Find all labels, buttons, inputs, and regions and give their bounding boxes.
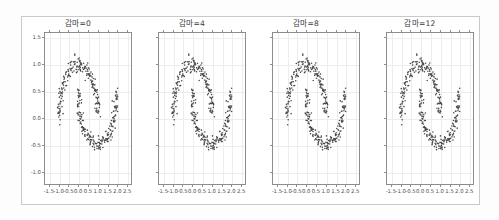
- scatter-points-0: [45, 33, 131, 184]
- x-tick-mark: [163, 185, 164, 187]
- x-tick-mark: [355, 185, 356, 187]
- x-tick-label: -1.5: [272, 188, 282, 195]
- y-tick-mark: [270, 145, 272, 146]
- x-tick-mark-top: [306, 30, 307, 32]
- x-tick-mark: [345, 185, 346, 187]
- x-tick-label: 2.5: [123, 188, 131, 195]
- subplot-title-1: 감마=4: [136, 19, 248, 29]
- x-tick-mark: [202, 185, 203, 187]
- x-tick-mark-top: [202, 30, 203, 32]
- plot-area-3: [386, 32, 474, 185]
- x-tick-mark-top: [117, 30, 118, 32]
- x-tick-mark: [440, 185, 441, 187]
- x-tick-label: 1.5: [217, 188, 225, 195]
- x-tick-mark: [212, 185, 213, 187]
- x-tick-mark-top: [440, 30, 441, 32]
- x-tick-label: 2.5: [237, 188, 245, 195]
- x-tick-mark-top: [430, 30, 431, 32]
- x-tick-mark: [296, 185, 297, 187]
- y-tick-mark: [42, 37, 44, 38]
- x-tick-mark: [127, 185, 128, 187]
- x-tick-mark: [78, 185, 79, 187]
- x-tick-mark-top: [98, 30, 99, 32]
- y-tick-label: -1.0: [31, 168, 41, 175]
- scatter-points-2: [273, 33, 359, 184]
- subplot-panel-2: 감마=8-1.5-1.0-0.50.00.51.01.52.02.5: [250, 17, 362, 206]
- plot-area-0: [44, 32, 132, 185]
- x-tick-label: 0.0: [302, 188, 310, 195]
- x-tick-label: 2.0: [227, 188, 235, 195]
- y-tick-mark: [270, 37, 272, 38]
- x-tick-mark: [173, 185, 174, 187]
- x-tick-mark-top: [316, 30, 317, 32]
- x-tick-mark: [98, 185, 99, 187]
- scatter-points-3: [387, 33, 473, 184]
- x-tick-mark: [430, 185, 431, 187]
- x-tick-mark-top: [49, 30, 50, 32]
- x-tick-label: 1.5: [103, 188, 111, 195]
- subplot-title-3: 감마=12: [364, 19, 476, 29]
- x-tick-mark-top: [173, 30, 174, 32]
- x-tick-mark: [336, 185, 337, 187]
- x-tick-label: 1.5: [445, 188, 453, 195]
- x-tick-mark: [450, 185, 451, 187]
- x-tick-mark-top: [296, 30, 297, 32]
- x-tick-mark-top: [68, 30, 69, 32]
- plot-area-1: [158, 32, 246, 185]
- x-tick-label: -1.5: [158, 188, 168, 195]
- x-tick-mark-top: [459, 30, 460, 32]
- x-tick-mark: [222, 185, 223, 187]
- x-tick-mark: [410, 185, 411, 187]
- x-tick-label: 0.0: [74, 188, 82, 195]
- y-tick-mark: [156, 91, 158, 92]
- x-tick-label: 2.0: [455, 188, 463, 195]
- x-tick-label: 2.5: [465, 188, 473, 195]
- x-tick-label: 1.0: [94, 188, 102, 195]
- x-tick-mark-top: [127, 30, 128, 32]
- x-tick-label: 1.0: [322, 188, 330, 195]
- x-tick-mark: [287, 185, 288, 187]
- x-tick-mark-top: [277, 30, 278, 32]
- scatter-points-1: [159, 33, 245, 184]
- x-tick-label: -0.5: [405, 188, 415, 195]
- x-tick-mark-top: [391, 30, 392, 32]
- x-tick-mark: [88, 185, 89, 187]
- x-tick-mark-top: [88, 30, 89, 32]
- y-tick-mark: [384, 118, 386, 119]
- x-tick-label: -1.0: [281, 188, 291, 195]
- x-tick-mark: [277, 185, 278, 187]
- x-tick-label: 2.5: [351, 188, 359, 195]
- x-tick-label: -0.5: [63, 188, 73, 195]
- x-tick-mark-top: [59, 30, 60, 32]
- x-tick-label: -0.5: [177, 188, 187, 195]
- y-tick-mark: [270, 64, 272, 65]
- subplot-panel-0: 감마=0-1.5-1.0-0.50.00.51.01.52.02.51.51.0…: [22, 17, 134, 206]
- x-tick-mark: [68, 185, 69, 187]
- y-tick-mark: [384, 91, 386, 92]
- y-tick-mark: [42, 145, 44, 146]
- x-tick-mark-top: [287, 30, 288, 32]
- x-tick-mark-top: [182, 30, 183, 32]
- plot-area-2: [272, 32, 360, 185]
- x-tick-mark: [241, 185, 242, 187]
- y-tick-label: 1.0: [33, 61, 41, 68]
- y-tick-mark: [156, 118, 158, 119]
- x-tick-mark: [192, 185, 193, 187]
- x-tick-label: -1.0: [53, 188, 63, 195]
- x-tick-mark-top: [78, 30, 79, 32]
- y-tick-mark: [270, 118, 272, 119]
- subplot-panel-3: 감마=12-1.5-1.0-0.50.00.51.01.52.02.5: [364, 17, 476, 206]
- x-tick-mark-top: [420, 30, 421, 32]
- x-tick-mark: [182, 185, 183, 187]
- x-tick-mark: [459, 185, 460, 187]
- y-tick-mark: [42, 172, 44, 173]
- x-tick-label: -1.5: [44, 188, 54, 195]
- y-tick-mark: [384, 172, 386, 173]
- x-tick-mark: [306, 185, 307, 187]
- x-tick-label: -0.5: [291, 188, 301, 195]
- x-tick-mark: [469, 185, 470, 187]
- x-tick-label: 1.0: [436, 188, 444, 195]
- x-tick-mark: [401, 185, 402, 187]
- y-tick-mark: [270, 91, 272, 92]
- x-tick-mark-top: [231, 30, 232, 32]
